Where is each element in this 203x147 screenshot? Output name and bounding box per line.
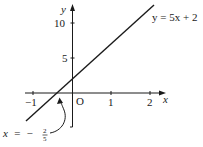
equation-label: y = 5x + 2 (152, 11, 197, 23)
y-tick-label-5: 5 (62, 52, 68, 64)
y-axis (70, 4, 75, 127)
origin-label: O (76, 95, 84, 107)
intercept-label-prefix: x = − (2, 127, 34, 139)
x-axis-label: x (162, 93, 168, 105)
plot-line (26, 5, 154, 121)
fraction-denominator: 5 (43, 135, 47, 143)
annotation-arrowhead-icon (57, 98, 63, 105)
y-axis-label: y (60, 3, 66, 15)
graph-figure: y x O −1 1 2 10 5 y = 5x + 2 x = − 2 5 (0, 0, 203, 147)
y-tick-label-10: 10 (54, 17, 66, 29)
x-tick-label-2: 2 (147, 96, 153, 108)
x-tick-label-neg1: −1 (25, 96, 37, 108)
annotation-arrow (50, 101, 65, 133)
fraction-numerator: 2 (43, 127, 47, 135)
x-axis (25, 91, 166, 96)
equation-text: y = 5x + 2 (152, 11, 197, 23)
y-axis-arrow-icon (70, 4, 75, 11)
x-tick-label-1: 1 (108, 96, 114, 108)
